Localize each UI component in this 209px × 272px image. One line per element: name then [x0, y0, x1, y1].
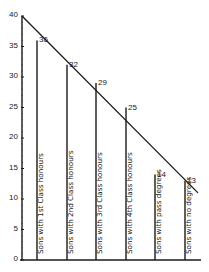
bar-category-label: Sons with 3rd Class honours [95, 152, 104, 254]
y-tick-label: 15 [9, 163, 18, 172]
y-tick-label: 0 [14, 254, 19, 263]
bar-category-label: Sons with pass degrees [154, 169, 163, 254]
axes [20, 16, 201, 260]
bars: 36Sons with 1st Class honours32Sons with… [36, 35, 196, 260]
y-tick-label: 10 [9, 193, 18, 202]
y-tick-label: 35 [9, 41, 18, 50]
bar-category-label: Sons with no degrees [184, 176, 193, 254]
bar-value-label: 25 [128, 103, 137, 112]
bar: 32Sons with 2nd Class honours [66, 60, 78, 260]
diagonal-line [22, 16, 198, 193]
bar-category-label: Sons with 2nd Class honours [66, 150, 75, 254]
bar: 29Sons with 3rd Class honours [95, 78, 107, 260]
bar-value-label: 32 [69, 60, 78, 69]
y-tick-label: 40 [9, 10, 18, 19]
chart: 0510152025303540 36Sons with 1st Class h… [0, 0, 209, 272]
bar-category-label: Sons with 4th Class honours [125, 152, 134, 254]
bar: 36Sons with 1st Class honours [36, 35, 48, 260]
y-tick-label: 25 [9, 102, 18, 111]
trend-line [22, 16, 198, 193]
y-tick-label: 5 [14, 224, 19, 233]
bar-category-label: Sons with 1st Class honours [36, 153, 45, 254]
y-tick-label: 20 [9, 132, 18, 141]
bar: 14Sons with pass degrees [154, 169, 166, 260]
bar: 13Sons with no degrees [184, 176, 196, 260]
bar-value-label: 29 [98, 78, 107, 87]
y-tick-label: 30 [9, 71, 18, 80]
bar-value-label: 36 [39, 35, 48, 44]
